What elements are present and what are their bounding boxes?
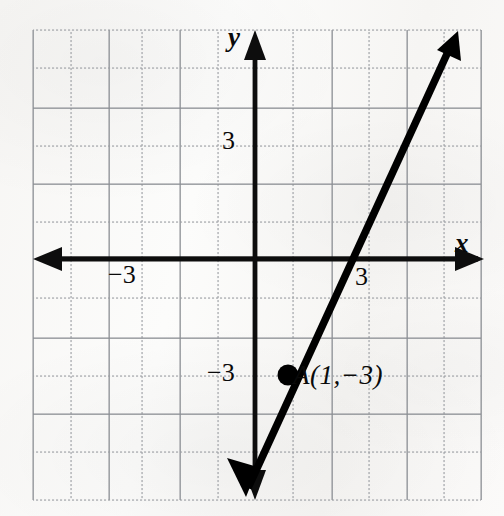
x-tick-label-positive-3: 3 [355, 262, 368, 292]
x-axis-arrow-left-icon [33, 247, 62, 271]
plotted-line [227, 31, 461, 497]
coordinate-plane-svg [0, 0, 504, 516]
point-a-label: A(1,−3) [293, 360, 383, 391]
y-tick-label-positive-3: 3 [222, 126, 235, 156]
x-axis-label: x [455, 228, 469, 259]
y-axis [244, 30, 266, 500]
y-tick-label-negative-3: −3 [207, 358, 235, 388]
graph-figure: y x −3 3 3 −3 A(1,−3) [0, 0, 504, 516]
y-axis-label: y [228, 22, 240, 53]
x-tick-label-negative-3: −3 [108, 260, 136, 290]
y-axis-arrow-up-icon [244, 30, 266, 60]
x-axis [33, 247, 484, 271]
